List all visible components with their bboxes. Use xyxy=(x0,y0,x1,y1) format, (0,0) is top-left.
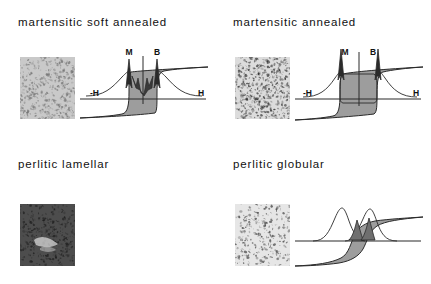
panel-martensitic-annealed: martensitic annealed M B -H H xyxy=(215,0,431,142)
axis-label-neg-h: -H xyxy=(90,88,99,98)
axis-label-neg-h: -H xyxy=(303,88,312,98)
hysteresis-plot-martensitic-soft-annealed: M B -H H xyxy=(78,44,210,128)
martensitic-soft-annealed-micrograph xyxy=(20,57,75,119)
panel-perlitic-globular: perlitic globular xyxy=(215,142,431,284)
panel-title: perlitic globular xyxy=(233,158,325,170)
barkhausen-broad-right xyxy=(379,72,417,97)
peak-label-m: M xyxy=(125,47,132,57)
hysteresis-plot-perlitic-globular xyxy=(293,192,425,276)
peak-label-m: M xyxy=(341,47,348,57)
peak-label-b: B xyxy=(370,47,376,57)
hysteresis-plot-martensitic-annealed: M B -H H xyxy=(293,44,425,128)
barkhausen-broad-right xyxy=(158,71,202,96)
axis-label-h: H xyxy=(413,88,419,98)
perlitic-globular-micrograph xyxy=(235,204,290,266)
panel-title: perlitic lamellar xyxy=(18,158,109,170)
peak-label-b: B xyxy=(154,47,160,57)
martensitic-annealed-micrograph xyxy=(235,57,290,119)
microstructure-hysteresis-figure: martensitic soft annealed xyxy=(0,0,431,284)
panel-title: martensitic annealed xyxy=(233,16,356,28)
panel-title: martensitic soft annealed xyxy=(18,16,167,28)
panel-perlitic-lamellar: perlitic lamellar xyxy=(0,142,215,284)
panel-martensitic-soft-annealed: martensitic soft annealed xyxy=(0,0,215,142)
perlitic-lamellar-micrograph xyxy=(20,204,75,266)
axis-label-h: H xyxy=(198,88,204,98)
